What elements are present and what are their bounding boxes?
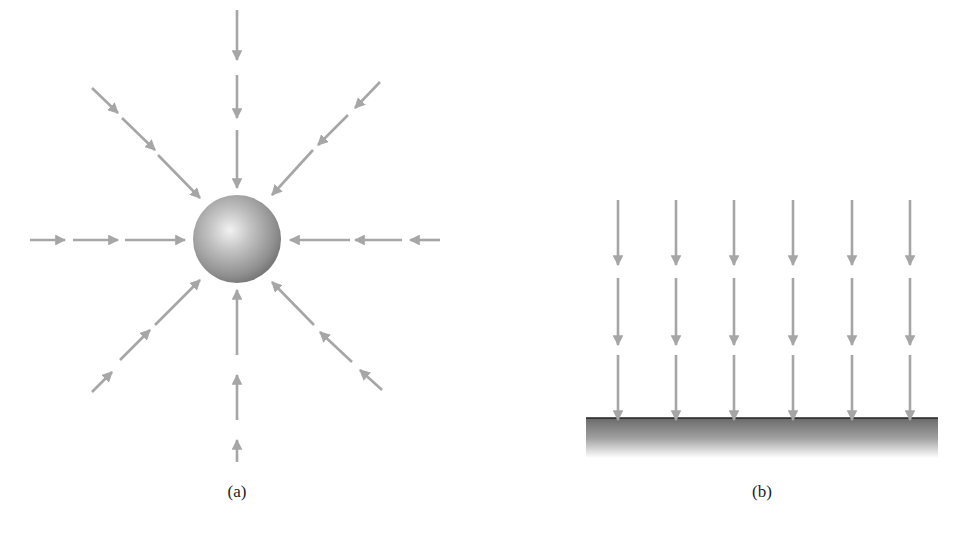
arrow-icon	[320, 332, 352, 362]
panel-b-uniform-field	[586, 200, 938, 458]
field-ray-up-left	[272, 282, 382, 390]
arrow-icon	[360, 370, 382, 390]
field-ray-up-right	[92, 280, 200, 392]
arrow-icon	[155, 280, 200, 325]
sphere	[193, 195, 281, 283]
caption-b: (b)	[752, 482, 772, 502]
arrow-icon	[318, 115, 348, 145]
arrow-icon	[92, 88, 118, 113]
arrow-icon	[122, 118, 155, 150]
flat-surface	[586, 418, 938, 458]
caption-a: (a)	[228, 482, 247, 502]
arrow-icon	[355, 82, 380, 108]
figure: (a) (b)	[0, 0, 955, 537]
field-ray-down-left	[272, 82, 380, 195]
figure-canvas	[0, 0, 955, 537]
arrow-icon	[158, 155, 200, 198]
arrow-icon	[92, 372, 112, 392]
field-ray-down-right	[92, 88, 200, 198]
arrow-icon	[120, 330, 150, 360]
arrow-icon	[272, 150, 313, 195]
panel-a-radial-field	[30, 10, 440, 462]
arrow-icon	[272, 282, 314, 325]
